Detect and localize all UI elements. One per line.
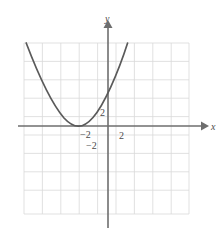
x-tick-label-2: 2: [119, 131, 124, 141]
x-axis-name-label: x: [211, 122, 215, 132]
y-axis: [104, 20, 113, 228]
coordinate-plane: [0, 0, 223, 231]
x-axis-arrow-icon: [201, 122, 209, 131]
y-tick-label-negative-2: −2: [86, 141, 97, 151]
x-tick-label-negative-2: −2: [80, 130, 91, 140]
grid-vertical-lines: [24, 43, 189, 214]
y-tick-label-2: 2: [100, 108, 105, 118]
grid-horizontal-lines: [24, 43, 189, 214]
parabola-curve: [26, 43, 127, 126]
x-axis: [18, 122, 209, 131]
graph-figure: 2 −2 −2 2 y x: [0, 0, 223, 231]
y-axis-name-label: y: [105, 14, 109, 24]
